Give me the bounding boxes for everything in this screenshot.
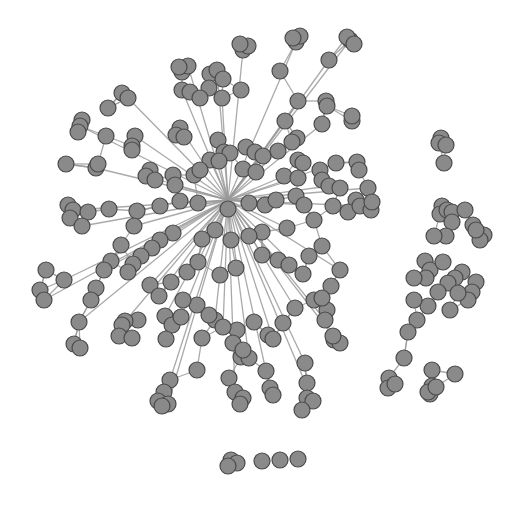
graph-node	[163, 274, 179, 290]
graph-node	[152, 198, 168, 214]
graph-node	[154, 398, 170, 414]
graph-node	[120, 264, 136, 280]
graph-node	[194, 330, 210, 346]
graph-node	[306, 212, 322, 228]
graph-node	[344, 108, 360, 124]
graph-node	[72, 340, 88, 356]
graph-node	[175, 292, 191, 308]
graph-node	[129, 203, 145, 219]
graph-node	[172, 193, 188, 209]
graph-node	[212, 267, 228, 283]
graph-node	[450, 285, 466, 301]
graph-node	[90, 156, 106, 172]
graph-node	[332, 180, 348, 196]
graph-node	[158, 331, 174, 347]
graph-node	[299, 375, 315, 391]
graph-node	[189, 362, 205, 378]
graph-node	[220, 458, 236, 474]
graph-node	[290, 93, 306, 109]
graph-node	[96, 262, 112, 278]
graph-node	[321, 52, 337, 68]
graph-node	[436, 155, 452, 171]
graph-node	[36, 292, 52, 308]
graph-node	[325, 328, 341, 344]
graph-node	[74, 218, 90, 234]
graph-node	[279, 220, 295, 236]
graph-node	[126, 218, 142, 234]
graph-node	[71, 314, 87, 330]
graph-node	[176, 129, 192, 145]
graph-node	[220, 201, 236, 217]
graph-node	[147, 172, 163, 188]
graph-node	[428, 379, 444, 395]
graph-node	[258, 363, 274, 379]
graph-node	[151, 288, 167, 304]
graph-node	[301, 248, 317, 264]
graph-node	[268, 192, 284, 208]
graph-node	[332, 262, 348, 278]
graph-node	[314, 238, 330, 254]
network-graph	[0, 0, 521, 526]
graph-node	[83, 292, 99, 308]
graph-node	[281, 257, 297, 273]
graph-node	[430, 284, 446, 300]
graph-node	[232, 36, 248, 52]
graph-node	[70, 124, 86, 140]
graph-node	[270, 143, 286, 159]
graph-node	[215, 319, 231, 335]
graph-node	[190, 254, 206, 270]
graph-node	[171, 59, 187, 75]
graph-node	[167, 177, 183, 193]
graph-edges	[40, 36, 484, 410]
graph-node	[290, 451, 306, 467]
graph-node	[272, 452, 288, 468]
graph-node	[297, 355, 313, 371]
graph-node	[364, 194, 380, 210]
graph-node	[255, 148, 271, 164]
graph-node	[328, 155, 344, 171]
graph-node	[272, 63, 288, 79]
graph-node	[201, 307, 217, 323]
graph-node	[113, 237, 129, 253]
graph-node	[447, 366, 463, 382]
graph-node	[325, 198, 341, 214]
graph-node	[223, 232, 239, 248]
graph-node	[254, 247, 270, 263]
graph-node	[38, 262, 54, 278]
graph-node	[192, 162, 208, 178]
graph-node	[351, 162, 367, 178]
graph-node	[426, 228, 442, 244]
graph-node	[100, 100, 116, 116]
graph-node	[319, 98, 335, 114]
graph-node	[314, 290, 330, 306]
graph-node	[56, 272, 72, 288]
graph-node	[173, 309, 189, 325]
graph-node	[295, 266, 311, 282]
graph-node	[194, 231, 210, 247]
graph-node	[438, 137, 454, 153]
graph-node	[290, 170, 306, 186]
graph-node	[442, 302, 458, 318]
graph-node	[435, 254, 451, 270]
graph-node	[287, 300, 303, 316]
graph-node	[457, 202, 473, 218]
graph-node	[294, 402, 310, 418]
graph-edge	[228, 50, 243, 200]
graph-node	[295, 155, 311, 171]
graph-node	[314, 116, 330, 132]
graph-node	[215, 71, 231, 87]
graph-node	[214, 90, 230, 106]
graph-node	[276, 168, 292, 184]
graph-node	[254, 453, 270, 469]
graph-node	[296, 197, 312, 213]
graph-node	[232, 396, 248, 412]
graph-node	[241, 195, 257, 211]
graph-node	[406, 270, 422, 286]
graph-node	[284, 134, 300, 150]
graph-node	[98, 128, 114, 144]
graph-node	[265, 387, 281, 403]
graph-node	[387, 376, 403, 392]
graph-node	[241, 228, 257, 244]
graph-node	[317, 312, 333, 328]
graph-node	[192, 90, 208, 106]
